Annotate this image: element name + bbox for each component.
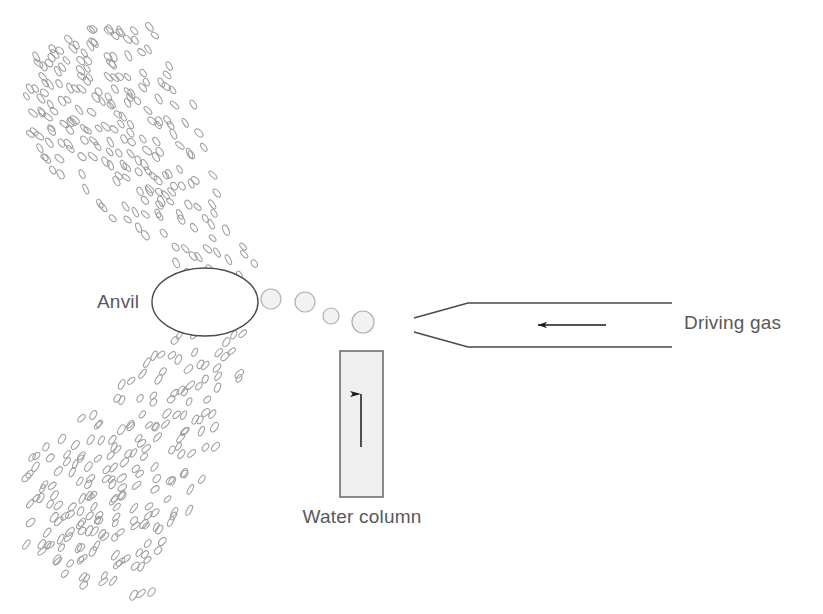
spray-droplet (213, 247, 222, 258)
spray-droplet (123, 215, 132, 224)
spray-droplet (121, 201, 130, 212)
spray-droplet (115, 528, 126, 538)
spray-droplet (38, 71, 48, 82)
spray-droplet (134, 167, 143, 177)
spray-droplet (32, 51, 41, 63)
spray-droplet (83, 461, 93, 473)
driving-gas-label: Driving gas (684, 312, 781, 333)
spray-droplet (131, 207, 140, 218)
spray-droplet (138, 410, 147, 419)
spray-droplet (89, 526, 99, 537)
spray-droplet (27, 108, 38, 118)
water-column-anvil-atomizer-diagram: Anvil Water column Driving gas (0, 0, 823, 614)
spray-droplet (70, 439, 81, 451)
spray-droplet (131, 480, 142, 490)
spray-droplet (151, 152, 161, 163)
spray-droplet (181, 118, 190, 128)
spray-droplet (150, 350, 158, 361)
spray-droplet (197, 426, 206, 437)
spray-droplet (155, 146, 165, 157)
spray-droplet (138, 82, 148, 93)
spray-droplet (153, 545, 163, 555)
spray-droplet (49, 490, 59, 501)
spray-droplet (200, 360, 210, 370)
spray-droplet (99, 531, 110, 541)
spray-droplet (183, 363, 194, 374)
spray-droplet (123, 72, 132, 81)
spray-droplet (189, 99, 198, 110)
spray-droplet (150, 31, 159, 40)
spray-droplet (186, 448, 196, 458)
spray-droplet (107, 434, 117, 445)
spray-droplet (193, 128, 204, 139)
spray-plume-lower-icon (21, 315, 248, 602)
spray-droplet (45, 453, 55, 464)
spray-droplet (189, 222, 199, 233)
spray-droplet (90, 502, 98, 512)
spray-droplet (212, 188, 222, 199)
spray-droplet (136, 186, 145, 196)
spray-droplet (210, 441, 221, 452)
spray-droplet (164, 168, 173, 179)
spray-droplet (207, 219, 216, 230)
spray-droplet (83, 479, 93, 490)
droplet-chain-icon (261, 289, 374, 333)
spray-droplet (74, 104, 84, 115)
spray-droplet (37, 108, 46, 118)
droplet (352, 311, 374, 333)
spray-droplet (104, 92, 113, 102)
spray-droplet (119, 457, 130, 468)
spray-droplet (113, 110, 123, 120)
spray-droplet (97, 435, 106, 445)
spray-droplet (114, 148, 123, 158)
spray-droplet (135, 548, 144, 558)
spray-droplet (129, 503, 139, 514)
spray-droplet (126, 120, 134, 130)
spray-droplet (53, 66, 62, 77)
droplet (261, 289, 281, 309)
spray-droplet (143, 538, 152, 548)
spray-droplet (152, 522, 160, 532)
spray-droplet (129, 448, 138, 458)
spray-droplet (103, 72, 113, 83)
spray-droplet (134, 434, 143, 443)
spray-droplet (36, 93, 46, 104)
spray-droplet (68, 467, 77, 478)
spray-droplet (88, 37, 98, 47)
spray-droplet (213, 382, 222, 393)
spray-droplet (129, 26, 139, 36)
spray-droplet (169, 128, 178, 140)
spray-droplet (234, 368, 245, 379)
spray-droplet (28, 453, 37, 463)
spray-droplet (239, 242, 248, 251)
spray-droplet (169, 181, 178, 191)
spray-droplet (78, 572, 87, 582)
spray-droplet (85, 511, 95, 521)
spray-droplet (47, 481, 57, 491)
spray-droplet (161, 407, 172, 419)
spray-droplet (208, 234, 217, 243)
spray-plume-upper-icon (23, 21, 259, 292)
spray-droplet (76, 83, 87, 94)
spray-droplet (94, 87, 103, 97)
spray-droplet (55, 46, 65, 56)
spray-droplet (106, 160, 115, 171)
spray-droplet (171, 242, 181, 252)
spray-droplet (112, 559, 122, 569)
spray-droplet (63, 34, 73, 44)
spray-droplet (138, 134, 147, 144)
spray-droplet (179, 410, 187, 420)
spray-droplet (36, 492, 45, 503)
spray-droplet (53, 465, 64, 477)
spray-droplet (169, 100, 180, 110)
spray-droplet (148, 171, 158, 181)
spray-droplet (40, 153, 49, 162)
spray-droplet (106, 450, 116, 460)
spray-droplet (221, 336, 231, 347)
spray-droplet (89, 409, 99, 420)
spray-droplet (74, 542, 83, 553)
spray-droplet (165, 61, 174, 71)
spray-droplet (201, 442, 210, 452)
spray-droplet (154, 93, 163, 105)
spray-droplet (76, 506, 85, 517)
